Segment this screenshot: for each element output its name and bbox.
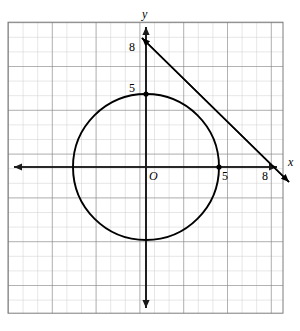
x-axis-label-5: 5	[222, 170, 228, 182]
x-axis-name-label: x	[288, 156, 293, 168]
point-marker-top	[143, 91, 148, 96]
graph-canvas	[0, 0, 300, 331]
origin-label: O	[149, 170, 158, 182]
y-axis-name-label: y	[142, 8, 147, 20]
x-axis-label-8: 8	[262, 170, 268, 182]
point-marker-right	[216, 164, 221, 169]
coordinate-graph-figure: 5 8 5 8 O x y	[0, 0, 300, 331]
y-axis-label-5: 5	[129, 82, 135, 94]
y-axis-label-8: 8	[129, 41, 135, 53]
